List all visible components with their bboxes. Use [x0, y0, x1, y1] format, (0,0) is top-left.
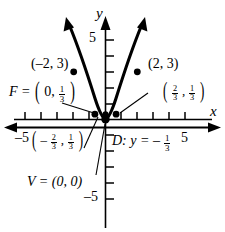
label-vertex: V = (0, 0) [27, 175, 82, 189]
directrix-prefix: D: y = [112, 133, 149, 148]
label-focus: F = ( 0, 1 3 ) [9, 85, 76, 104]
y-tick-label-minus5: –5 [84, 190, 98, 204]
right-point-x-fraction: 2 3 [172, 85, 178, 103]
label-point-two-thirds: ( 2 3 , 1 3 ) [162, 84, 205, 103]
focus-close-paren: ) [70, 80, 75, 105]
directrix-sign: – [153, 133, 160, 148]
graph-canvas [0, 0, 225, 232]
y-axis-label: y [96, 6, 103, 21]
right-point-y-numerator: 1 [189, 85, 195, 93]
left-point-x-sign: – [41, 132, 48, 147]
right-point-y-fraction: 1 3 [189, 85, 195, 103]
focus-open-paren: ( [35, 80, 40, 105]
label-directrix: D: y = – 1 3 [112, 134, 171, 153]
right-point-y-denominator: 3 [189, 93, 195, 102]
point-minus2-3 [70, 68, 77, 75]
x-axis-arrow-right [208, 123, 221, 133]
focus-point [103, 111, 109, 117]
leader-vertex [96, 124, 105, 175]
x-axis-label: x [210, 104, 217, 119]
label-point-minus-two-thirds: ( – 2 3 , 1 3 ) [31, 133, 84, 152]
focus-y-numerator: 1 [59, 85, 65, 94]
left-point-x-numerator: 2 [51, 134, 57, 142]
parabola-figure: y x 5 –5 –5 5 (–2, 3) (2, 3) F = ( 0, 1 … [0, 0, 225, 232]
right-point-close-paren: ) [200, 79, 204, 102]
left-point-open-paren: ( [32, 128, 36, 151]
directrix-fraction: 1 3 [164, 134, 170, 153]
x-tick-label-5: 5 [181, 131, 188, 145]
leader-right-fraction [120, 93, 148, 113]
right-point-x-numerator: 2 [172, 85, 178, 93]
left-point-x-denominator: 3 [51, 142, 57, 151]
point-two-thirds [113, 111, 120, 118]
left-point-y-numerator: 1 [68, 134, 74, 142]
leader-left-fraction [84, 117, 98, 148]
y-tick-label-5: 5 [89, 31, 96, 45]
directrix-denominator: 3 [164, 143, 170, 153]
focus-x-value: 0, [44, 84, 55, 99]
focus-y-denominator: 3 [59, 94, 65, 104]
left-point-y-denominator: 3 [68, 142, 74, 151]
left-point-close-paren: ) [79, 128, 83, 151]
label-point-2-3: (2, 3) [148, 57, 178, 71]
right-point-comma: , [182, 83, 185, 98]
label-point-minus2-3: (–2, 3) [31, 57, 68, 71]
left-point-comma: , [61, 132, 64, 147]
left-point-y-fraction: 1 3 [68, 134, 74, 152]
left-point-x-fraction: 2 3 [51, 134, 57, 152]
x-tick-label-minus5: –5 [15, 131, 29, 145]
right-point-open-paren: ( [163, 79, 167, 102]
directrix-numerator: 1 [164, 134, 170, 143]
right-point-x-denominator: 3 [172, 93, 178, 102]
focus-y-fraction: 1 3 [59, 85, 65, 104]
focus-prefix: F = [9, 84, 31, 99]
point-minus-two-thirds [92, 111, 99, 118]
leader-focus [62, 103, 97, 114]
point-2-3 [134, 68, 141, 75]
